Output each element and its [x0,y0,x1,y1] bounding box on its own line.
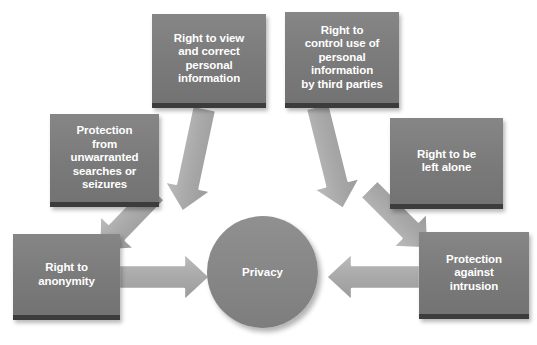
node-privacy-label: Privacy [242,266,283,278]
node-control-use[interactable]: Right to control use of personal informa… [285,12,399,108]
node-control-use-label: Right to control use of personal informa… [301,24,382,91]
node-intrusion-label: Protection against intrusion [446,253,502,293]
node-view-correct[interactable]: Right to view and correct personal infor… [152,14,266,108]
node-unwarranted-searches-label: Protection from unwarranted searches or … [71,124,139,191]
node-anonymity[interactable]: Right to anonymity [13,234,120,320]
node-intrusion[interactable]: Protection against intrusion [419,232,529,319]
arrow-view-correct-to-privacy [159,103,228,217]
node-left-alone-label: Right to be left alone [417,148,476,175]
node-view-correct-label: Right to view and correct personal infor… [174,32,244,86]
arrow-anonymity-to-privacy [119,253,210,301]
node-privacy-center[interactable]: Privacy [207,216,318,328]
diagram-canvas: Right to view and correct personal infor… [0,0,537,345]
node-anonymity-label: Right to anonymity [38,261,95,288]
arrow-control-use-to-privacy [294,100,366,214]
node-unwarranted-searches[interactable]: Protection from unwarranted searches or … [50,114,159,207]
node-left-alone[interactable]: Right to be left alone [390,118,503,209]
arrow-intrusion-to-privacy [326,253,420,301]
